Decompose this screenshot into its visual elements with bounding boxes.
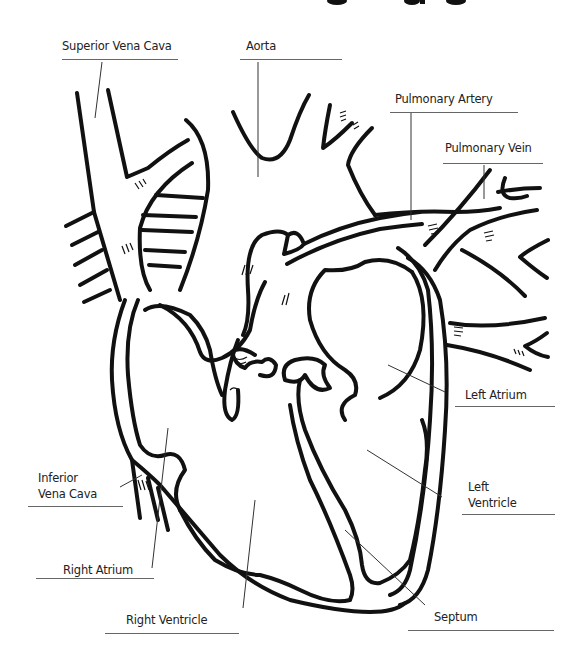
underline-septum — [408, 630, 554, 631]
label-right-atrium: Right Atrium — [63, 563, 133, 577]
label-pulmonary-artery: Pulmonary Artery — [395, 92, 493, 106]
underline-left-ventricle — [462, 514, 555, 515]
label-superior-vena-cava: Superior Vena Cava — [62, 39, 172, 53]
label-inferior-vena-cava-line2: Vena Cava — [38, 487, 97, 501]
underline-pulmonary-artery — [390, 112, 518, 113]
heart-diagram: Superior Vena Cava Aorta Pulmonary Arter… — [0, 0, 588, 664]
underline-right-ventricle — [105, 633, 239, 634]
underline-superior-vena-cava — [62, 59, 178, 60]
underline-aorta — [240, 59, 342, 60]
label-left-ventricle-line1: Left — [468, 480, 489, 494]
label-right-ventricle: Right Ventricle — [126, 613, 207, 627]
label-left-ventricle-line2: Ventricle — [468, 496, 517, 510]
underline-left-atrium — [455, 406, 555, 407]
label-septum: Septum — [434, 610, 477, 624]
underline-inferior-vena-cava — [28, 506, 123, 507]
label-aorta: Aorta — [246, 39, 276, 53]
underline-right-atrium — [36, 578, 154, 579]
label-pulmonary-vein: Pulmonary Vein — [445, 141, 532, 155]
label-inferior-vena-cava-line1: Inferior — [38, 471, 78, 485]
title-fragment — [327, 0, 466, 5]
underline-pulmonary-vein — [443, 163, 543, 164]
label-left-atrium: Left Atrium — [465, 388, 527, 402]
